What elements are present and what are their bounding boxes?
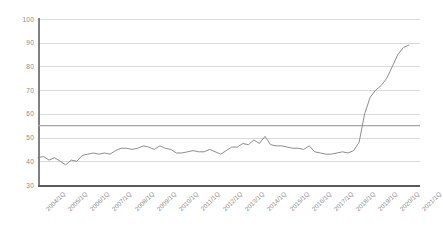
gridline-80 [38, 66, 420, 67]
y-tick-label: 100 [4, 16, 34, 23]
y-tick-label: 40 [4, 158, 34, 165]
x-tick-label: 2004/1Q [44, 190, 66, 212]
x-tick-label: 2013/1Q [243, 190, 265, 212]
y-tick-label: 70 [4, 87, 34, 94]
x-tick-label: 2015/1Q [288, 190, 310, 212]
y-tick-label: 60 [4, 110, 34, 117]
gridline-40 [38, 161, 420, 162]
x-tick-label: 2011/1Q [199, 190, 221, 212]
x-tick-label: 2007/1Q [111, 190, 133, 212]
x-tick-label: 2012/1Q [221, 190, 243, 212]
gridline-70 [38, 90, 420, 91]
x-axis-line [38, 185, 420, 187]
x-tick-label: 2006/1Q [88, 190, 110, 212]
gridline-50 [38, 138, 420, 139]
x-tick-label: 2019/1Q [376, 190, 398, 212]
x-tick-label: 2009/1Q [155, 190, 177, 212]
y-tick-label: 50 [4, 134, 34, 141]
x-tick-label: 2017/1Q [332, 190, 354, 212]
x-tick-label: 2016/1Q [310, 190, 332, 212]
x-tick-label: 2005/1Q [66, 190, 88, 212]
gridline-90 [38, 43, 420, 44]
x-tick-label: 2018/1Q [354, 190, 376, 212]
y-axis-line [38, 18, 40, 186]
x-axis-labels: 2004/1Q2005/1Q2006/1Q2007/1Q2008/1Q2009/… [0, 188, 428, 234]
x-tick-label: 2020/1Q [398, 190, 420, 212]
y-tick-label: 80 [4, 63, 34, 70]
x-tick-label: 2010/1Q [177, 190, 199, 212]
gridline-100 [38, 19, 420, 20]
x-tick-label: 2014/1Q [266, 190, 288, 212]
x-tick-label: 2021/1Q [421, 190, 443, 212]
gridline-60 [38, 114, 420, 115]
x-tick-label: 2008/1Q [133, 190, 155, 212]
y-tick-label: 90 [4, 39, 34, 46]
plot-area [38, 19, 420, 185]
